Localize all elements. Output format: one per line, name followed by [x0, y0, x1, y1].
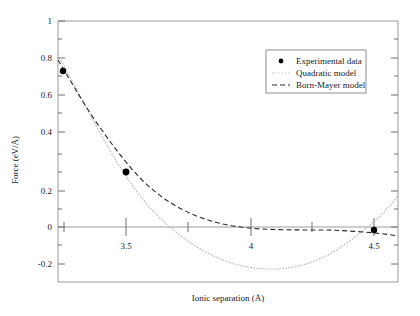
data-point — [123, 169, 130, 176]
y-tick-labels: 1 0.8 0.6 0.4 0.2 0 -0.2 — [38, 16, 53, 269]
force-vs-separation-chart: 1 0.8 0.6 0.4 0.2 0 -0.2 3.5 4 4.5 Ionic… — [0, 0, 420, 316]
legend-label-experimental-data: Experimental data — [296, 56, 362, 66]
x-tick-label: 4.5 — [368, 241, 380, 251]
y-tick-label: 0.8 — [41, 53, 53, 63]
y-tick-label: 1 — [48, 16, 53, 26]
x-tick-label: 4 — [249, 241, 254, 251]
legend-label-born-mayer-model: Born-Mayer model — [296, 80, 366, 90]
x-tick-label: 3.5 — [120, 241, 132, 251]
y-tick-label: -0.2 — [38, 259, 52, 269]
y-tick-label: 0 — [48, 222, 53, 232]
x-axis-title: Ionic separation (Å) — [192, 293, 264, 303]
plot-area: 1 0.8 0.6 0.4 0.2 0 -0.2 3.5 4 4.5 Ionic… — [0, 0, 420, 316]
y-tick-label: 0.2 — [41, 186, 52, 196]
y-tick-label: 0.6 — [41, 90, 53, 100]
chart-legend: Experimental data Quadratic model Born-M… — [266, 50, 366, 93]
data-point — [371, 227, 377, 233]
y-tick-label: 0.4 — [41, 127, 53, 137]
legend-marker-experimental-data-icon — [279, 59, 284, 64]
y-axis-title: Force (eV/Å) — [10, 136, 20, 184]
data-point — [60, 68, 66, 74]
x-tick-labels: 3.5 4 4.5 — [120, 241, 380, 251]
legend-label-quadratic-model: Quadratic model — [296, 68, 357, 78]
